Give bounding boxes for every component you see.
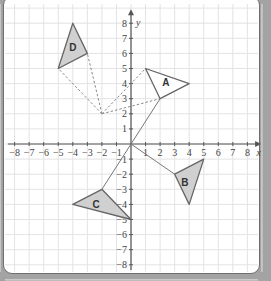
y-tick-label: −6: [116, 229, 127, 240]
y-tick-label: 7: [122, 33, 127, 44]
triangle-label-d: D: [69, 42, 76, 53]
x-tick-label: −5: [53, 147, 64, 158]
y-tick-label: −3: [116, 184, 127, 195]
triangle-label-b: B: [181, 177, 188, 188]
x-tick-label: 8: [245, 147, 250, 158]
x-tick-label: 4: [187, 147, 192, 158]
y-tick-label: 2: [122, 108, 127, 119]
coordinate-grid: −8−7−6−5−4−3−2−11234567887654321−1−2−3−4…: [0, 0, 271, 281]
x-tick-label: 7: [230, 147, 235, 158]
y-tick-label: −8: [116, 259, 127, 270]
dashed-construction-line: [102, 69, 146, 114]
x-tick-label: 3: [172, 147, 177, 158]
x-tick-label: −2: [97, 147, 108, 158]
y-tick-label: 6: [122, 48, 127, 59]
y-axis-arrow-icon: [128, 9, 134, 15]
triangle-label-a: A: [162, 77, 169, 88]
x-tick-label: −3: [82, 147, 93, 158]
x-tick-label: −7: [24, 147, 35, 158]
y-tick-label: −2: [116, 169, 127, 180]
dashed-construction-line: [58, 69, 102, 114]
y-tick-label: 1: [122, 123, 127, 134]
y-tick-label: 4: [122, 78, 127, 89]
y-tick-label: −7: [116, 244, 127, 255]
triangle-label-c: C: [92, 199, 99, 210]
x-tick-label: −6: [38, 147, 49, 158]
x-tick-label: −8: [9, 147, 20, 158]
y-axis-label: y: [135, 17, 141, 28]
x-axis-label: x: [255, 147, 261, 158]
x-tick-label: 2: [158, 147, 163, 158]
x-tick-label: −4: [67, 147, 78, 158]
x-tick-label: 6: [216, 147, 221, 158]
x-tick-label: 5: [201, 147, 206, 158]
y-tick-label: 3: [122, 93, 127, 104]
y-tick-label: 5: [122, 63, 127, 74]
y-tick-label: 8: [122, 18, 127, 29]
